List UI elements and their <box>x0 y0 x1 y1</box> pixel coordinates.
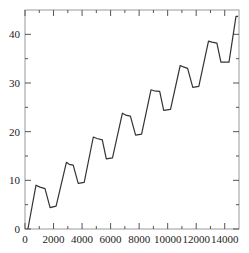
x-axis-ticks <box>25 10 225 229</box>
x-tick-label: 14000 <box>211 233 239 245</box>
x-tick-label: 12000 <box>182 233 210 245</box>
y-tick-label: 30 <box>9 77 21 89</box>
x-tick-label: 0 <box>22 233 28 245</box>
x-tick-label: 4000 <box>71 233 94 245</box>
x-tick-label: 2000 <box>43 233 66 245</box>
y-tick-label: 20 <box>9 126 21 138</box>
x-tick-label: 8000 <box>128 233 151 245</box>
y-tick-label: 0 <box>15 223 21 235</box>
x-tick-label: 10000 <box>154 233 182 245</box>
data-series-line <box>28 16 238 229</box>
line-chart: 02000400060008000100001200014000 0102030… <box>0 0 249 253</box>
y-axis-tick-labels: 010203040 <box>9 28 21 235</box>
plot-frame <box>25 10 239 229</box>
y-tick-label: 10 <box>9 174 21 186</box>
x-tick-label: 6000 <box>100 233 123 245</box>
x-axis-tick-labels: 02000400060008000100001200014000 <box>22 233 239 245</box>
y-tick-label: 40 <box>9 28 21 40</box>
